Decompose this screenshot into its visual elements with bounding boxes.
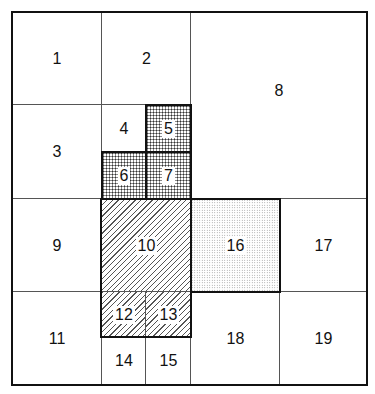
- cell-label: 19: [313, 330, 335, 348]
- cell-1: 1: [12, 12, 102, 105]
- cell-label: 5: [162, 120, 175, 138]
- cell-2: 2: [102, 12, 191, 105]
- quadtree-diagram: 1 2 3 4 5 6 7 8 9 10 11 12 13 14 15 16 1…: [0, 0, 375, 394]
- cell-9: 9: [12, 199, 102, 292]
- cell-label: 6: [118, 167, 131, 185]
- cell-label: 18: [225, 330, 247, 348]
- cell-10: 10: [102, 199, 191, 292]
- cell-7: 7: [146, 152, 191, 199]
- cell-label: 11: [47, 330, 68, 348]
- cell-12: 12: [102, 292, 146, 337]
- cell-label: 3: [51, 143, 64, 161]
- cell-17: 17: [280, 199, 367, 292]
- cell-4: 4: [102, 105, 146, 152]
- cell-6: 6: [102, 152, 146, 199]
- cell-label: 1: [51, 50, 64, 68]
- cell-18: 18: [191, 292, 280, 385]
- cell-16: 16: [191, 199, 280, 292]
- cell-label: 12: [113, 306, 135, 324]
- cell-label: 8: [273, 82, 286, 100]
- cell-8: 8: [191, 12, 367, 199]
- cell-label: 13: [158, 306, 180, 324]
- cell-label: 14: [113, 352, 135, 370]
- cell-label: 15: [158, 352, 180, 370]
- cell-label: 2: [140, 50, 153, 68]
- cell-13: 13: [146, 292, 191, 337]
- cell-label: 4: [118, 120, 131, 138]
- cell-3: 3: [12, 105, 102, 199]
- cell-label: 17: [313, 237, 335, 255]
- cell-label: 10: [136, 237, 158, 255]
- cell-label: 7: [162, 167, 175, 185]
- cell-5: 5: [146, 105, 191, 152]
- cell-14: 14: [102, 337, 146, 385]
- cell-label: 16: [225, 237, 247, 255]
- cell-19: 19: [280, 292, 367, 385]
- cell-label: 9: [51, 237, 64, 255]
- cell-15: 15: [146, 337, 191, 385]
- cell-11: 11: [12, 292, 102, 385]
